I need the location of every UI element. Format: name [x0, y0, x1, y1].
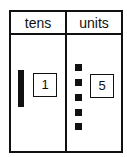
unit-cube-icon	[75, 94, 82, 101]
unit-cube-icon	[75, 123, 82, 130]
units-header: units	[67, 14, 121, 32]
unit-cube-icon	[75, 79, 82, 86]
tens-header: tens	[11, 14, 65, 32]
unit-cube-icon	[75, 109, 82, 116]
units-value-box: 5	[90, 74, 114, 98]
tens-value-box: 1	[33, 73, 57, 97]
unit-cube-icon	[75, 64, 82, 71]
tens-rod-icon	[18, 70, 24, 107]
